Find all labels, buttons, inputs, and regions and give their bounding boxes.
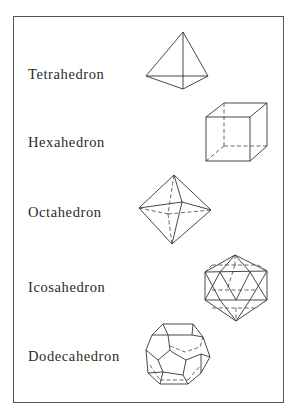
solids-drawing <box>0 0 299 416</box>
hexahedron-icon <box>206 103 267 161</box>
octahedron-icon <box>139 175 211 244</box>
tetrahedron-icon <box>146 32 208 89</box>
icosahedron-icon <box>205 255 267 321</box>
dodecahedron-icon <box>146 324 210 384</box>
